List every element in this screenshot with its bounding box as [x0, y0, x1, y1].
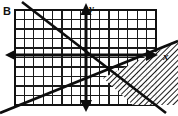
y-axis-label: y [87, 2, 94, 14]
graph-figure: B y x [0, 0, 178, 116]
x-axis-label: x [162, 50, 169, 62]
graph-svg: B y x [0, 0, 178, 116]
panel-label: B [3, 5, 11, 17]
